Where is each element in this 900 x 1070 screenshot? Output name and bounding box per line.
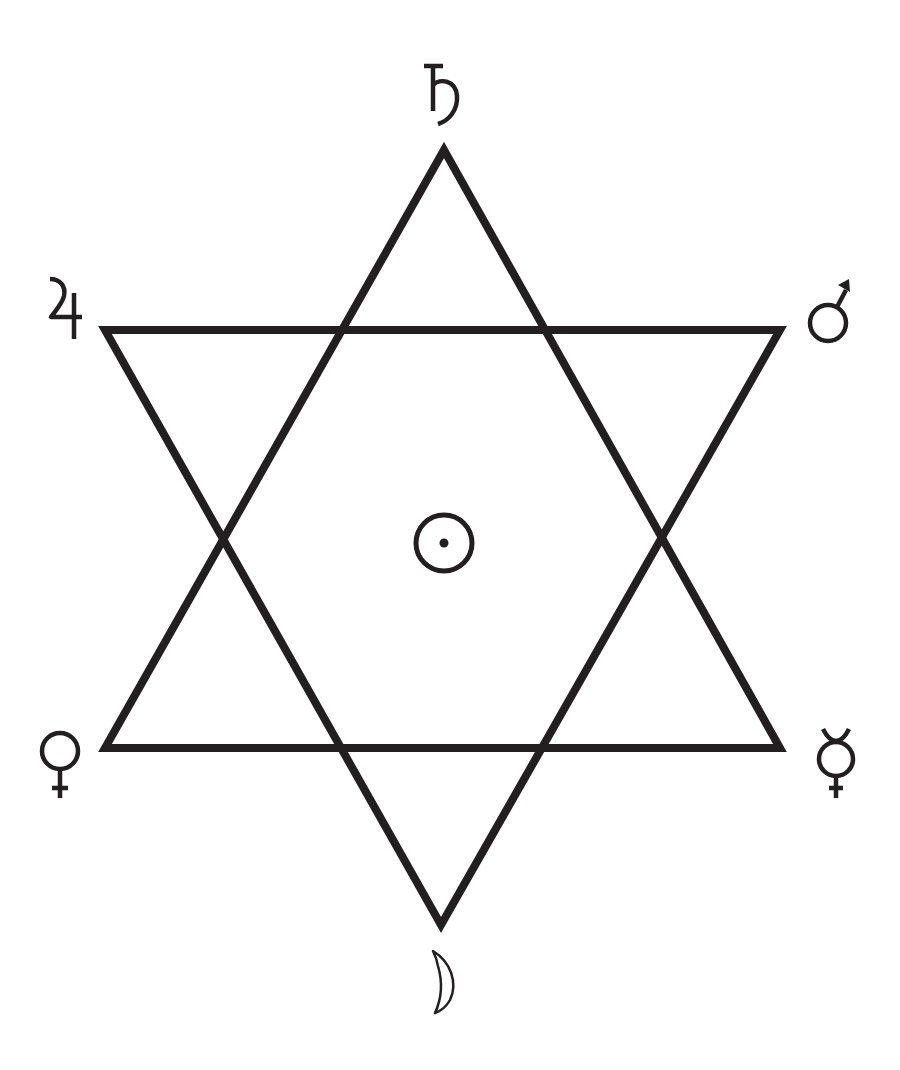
hexagram-diagram: Saturn Jupiter Mars Sun Venus Mercury <box>0 0 900 1070</box>
